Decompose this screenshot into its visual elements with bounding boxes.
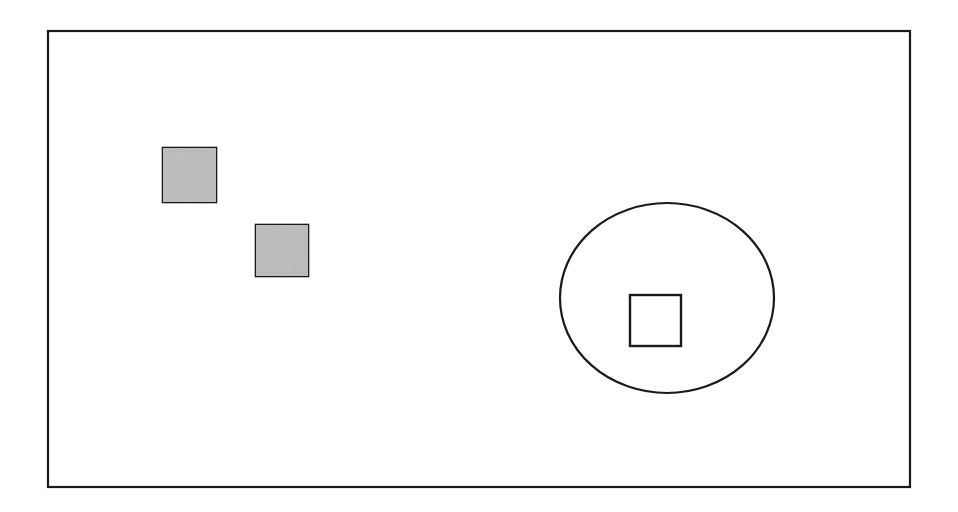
gray-square-2-group	[256, 225, 308, 276]
diagram-canvas	[0, 0, 958, 512]
outer-frame-rectangle	[48, 31, 910, 487]
gray-square-1-group	[163, 148, 216, 202]
gray-square-1-texture	[163, 148, 216, 202]
inner-white-square	[630, 295, 681, 346]
diagram-svg	[0, 0, 958, 512]
gray-square-2-texture	[256, 225, 308, 276]
